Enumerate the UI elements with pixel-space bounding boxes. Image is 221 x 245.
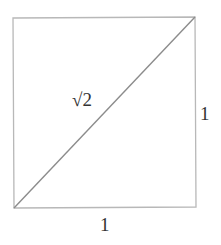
square-diagram: √2 1 1 [0, 0, 221, 245]
bottom-side-label: 1 [100, 214, 110, 235]
diagonal-line [14, 17, 195, 208]
right-side-label: 1 [200, 103, 210, 124]
diagonal-label: √2 [72, 89, 92, 110]
